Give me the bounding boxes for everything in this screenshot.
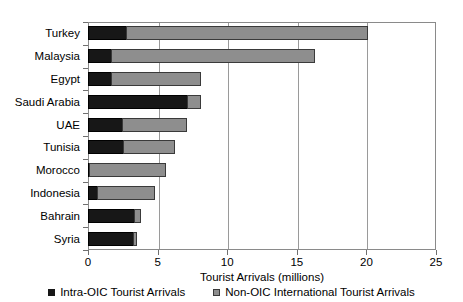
bar-row [88, 49, 315, 63]
category-axis: TurkeyMalaysiaEgyptSaudi ArabiaUAETunisi… [0, 22, 84, 250]
bar-segment-intra-oic [88, 26, 127, 40]
legend-item-intra-oic: Intra-OIC Tourist Arrivals [48, 286, 185, 298]
category-tick [83, 159, 88, 160]
x-axis-title: Tourist Arrivals (millions) [88, 271, 436, 283]
x-axis-tick-label: 15 [277, 256, 317, 269]
category-label: Syria [54, 232, 80, 246]
category-tick [83, 136, 88, 137]
bar-segment-intra-oic [88, 72, 112, 86]
category-tick [83, 90, 88, 91]
category-tick [83, 113, 88, 114]
legend-label: Intra-OIC Tourist Arrivals [60, 286, 185, 298]
x-axis-tick [436, 250, 437, 255]
bar-segment-non-oic [97, 186, 155, 200]
category-label: UAE [56, 118, 80, 132]
bar-segment-non-oic [89, 163, 166, 177]
bar-segment-intra-oic [88, 118, 123, 132]
category-tick [83, 68, 88, 69]
category-label: Egypt [51, 72, 80, 86]
stacked-bar-chart: TurkeyMalaysiaEgyptSaudi ArabiaUAETunisi… [0, 0, 463, 302]
bar-segment-non-oic [122, 118, 187, 132]
x-axis-tick-label: 10 [207, 256, 247, 269]
bar-segment-intra-oic [88, 232, 134, 246]
bar-segment-non-oic [123, 140, 175, 154]
x-axis-tick [297, 250, 298, 255]
category-label: Saudi Arabia [15, 95, 80, 109]
x-axis-tick [366, 250, 367, 255]
category-tick [83, 22, 88, 23]
bar-segment-non-oic [126, 26, 368, 40]
legend-swatch-icon [48, 289, 55, 296]
chart-legend: Intra-OIC Tourist Arrivals Non-OIC Inter… [0, 286, 463, 298]
legend-item-non-oic: Non-OIC International Tourist Arrivals [213, 286, 415, 298]
bar-segment-non-oic [111, 49, 316, 63]
legend-label: Non-OIC International Tourist Arrivals [225, 286, 415, 298]
category-tick [83, 45, 88, 46]
bar-segment-intra-oic [88, 49, 112, 63]
bar-row [88, 209, 141, 223]
category-label: Tunisia [43, 140, 80, 154]
category-label: Malaysia [35, 49, 80, 63]
x-axis-tick-label: 25 [416, 256, 456, 269]
x-axis-tick [158, 250, 159, 255]
x-axis-tick [88, 250, 89, 255]
bars-layer [88, 22, 436, 250]
bar-row [88, 186, 155, 200]
category-tick [83, 204, 88, 205]
bar-row [88, 232, 137, 246]
bar-row [88, 163, 166, 177]
category-label: Bahrain [40, 209, 80, 223]
bar-segment-intra-oic [88, 95, 188, 109]
x-axis-tick-label: 0 [68, 256, 108, 269]
bar-row [88, 140, 175, 154]
bar-row [88, 26, 368, 40]
x-axis-tick-label: 5 [138, 256, 178, 269]
category-tick [83, 182, 88, 183]
bar-segment-non-oic [134, 209, 141, 223]
x-axis-tick-label: 20 [346, 256, 386, 269]
x-axis-tick [227, 250, 228, 255]
bar-row [88, 95, 201, 109]
legend-swatch-icon [213, 289, 220, 296]
bar-row [88, 118, 187, 132]
bar-segment-intra-oic [88, 209, 135, 223]
category-label: Indonesia [30, 186, 80, 200]
category-label: Morocco [36, 163, 80, 177]
category-tick [83, 227, 88, 228]
bar-segment-intra-oic [88, 140, 124, 154]
bar-segment-non-oic [133, 232, 137, 246]
category-label: Turkey [45, 26, 80, 40]
bar-segment-non-oic [187, 95, 201, 109]
bar-segment-non-oic [111, 72, 201, 86]
bar-row [88, 72, 201, 86]
